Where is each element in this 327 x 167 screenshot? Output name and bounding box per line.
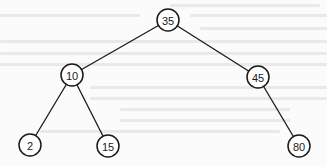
edge-10-2 <box>30 75 72 145</box>
edge-45-80 <box>258 77 299 146</box>
diagram-canvas: 35 10 45 2 15 80 <box>0 0 327 167</box>
edge-10-15 <box>72 75 108 146</box>
node-label: 10 <box>66 70 78 82</box>
tree-node-45: 45 <box>247 66 269 88</box>
tree-node-35: 35 <box>157 9 179 31</box>
node-label: 80 <box>293 141 305 153</box>
tree-node-10: 10 <box>61 64 83 86</box>
node-label: 45 <box>252 72 264 84</box>
node-label: 2 <box>27 140 33 152</box>
edge-35-10 <box>72 20 168 75</box>
tree-node-80: 80 <box>288 135 310 157</box>
edge-35-45 <box>168 20 258 77</box>
node-label: 35 <box>162 15 174 27</box>
tree-node-2: 2 <box>19 134 41 156</box>
tree-node-15: 15 <box>97 135 119 157</box>
node-label: 15 <box>102 141 114 153</box>
tree-diagram: 35 10 45 2 15 80 <box>0 0 327 167</box>
